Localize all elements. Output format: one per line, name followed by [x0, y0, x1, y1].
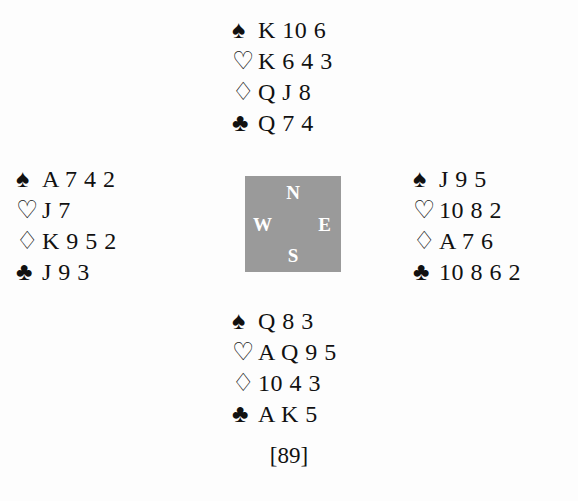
hand-east-hearts-cards: 10 8 2 [439, 195, 502, 226]
hand-south-spades-row: ♠ Q 8 3 [232, 305, 337, 336]
hand-east-clubs-cards: 10 8 6 2 [439, 257, 521, 288]
hand-east-spades-row: ♠ J 9 5 [413, 163, 521, 194]
heart-icon: ♡ [232, 336, 258, 367]
diamond-icon: ♢ [232, 76, 258, 107]
hand-north-hearts-row: ♡ K 6 4 3 [232, 45, 333, 76]
heart-icon: ♡ [232, 45, 258, 76]
hand-south-diamonds-row: ♢ 10 4 3 [232, 367, 337, 398]
diamond-icon: ♢ [232, 367, 258, 398]
compass-label-south: S [288, 246, 299, 265]
hand-south-hearts-cards: A Q 9 5 [258, 337, 337, 368]
hand-east-clubs-row: ♣ 10 8 6 2 [413, 256, 521, 287]
hand-south-clubs-row: ♣ A K 5 [232, 398, 337, 429]
compass-label-north: N [286, 183, 300, 202]
hand-west-spades-cards: A 7 4 2 [42, 164, 116, 195]
hand-west: ♠ A 7 4 2 ♡ J 7 ♢ K 9 5 2 ♣ J 9 3 [16, 163, 117, 287]
diamond-icon: ♢ [16, 225, 42, 256]
club-icon: ♣ [232, 398, 258, 429]
hand-south-clubs-cards: A K 5 [258, 399, 318, 430]
hand-east-spades-cards: J 9 5 [439, 164, 487, 195]
hand-west-clubs-row: ♣ J 9 3 [16, 256, 117, 287]
hand-south: ♠ Q 8 3 ♡ A Q 9 5 ♢ 10 4 3 ♣ A K 5 [232, 305, 337, 429]
diagram-caption: [89] [0, 443, 578, 469]
compass-box: N W E S [245, 176, 341, 272]
hand-west-diamonds-cards: K 9 5 2 [42, 226, 117, 257]
bridge-hand-diagram: ♠ K 10 6 ♡ K 6 4 3 ♢ Q J 8 ♣ Q 7 4 ♠ A 7… [0, 0, 578, 501]
hand-east-diamonds-cards: A 7 6 [439, 226, 494, 257]
club-icon: ♣ [413, 256, 439, 287]
hand-south-hearts-row: ♡ A Q 9 5 [232, 336, 337, 367]
diamond-icon: ♢ [413, 225, 439, 256]
hand-north: ♠ K 10 6 ♡ K 6 4 3 ♢ Q J 8 ♣ Q 7 4 [232, 14, 333, 138]
hand-north-clubs-cards: Q 7 4 [258, 108, 314, 139]
spade-icon: ♠ [232, 14, 258, 45]
spade-icon: ♠ [413, 163, 439, 194]
hand-west-clubs-cards: J 9 3 [42, 257, 90, 288]
hand-west-hearts-row: ♡ J 7 [16, 194, 117, 225]
hand-north-diamonds-cards: Q J 8 [258, 77, 311, 108]
hand-north-hearts-cards: K 6 4 3 [258, 46, 333, 77]
heart-icon: ♡ [16, 194, 42, 225]
hand-west-spades-row: ♠ A 7 4 2 [16, 163, 117, 194]
hand-south-diamonds-cards: 10 4 3 [258, 368, 321, 399]
hand-east-diamonds-row: ♢ A 7 6 [413, 225, 521, 256]
hand-west-hearts-cards: J 7 [42, 195, 71, 226]
hand-west-diamonds-row: ♢ K 9 5 2 [16, 225, 117, 256]
hand-east-hearts-row: ♡ 10 8 2 [413, 194, 521, 225]
hand-east: ♠ J 9 5 ♡ 10 8 2 ♢ A 7 6 ♣ 10 8 6 2 [413, 163, 521, 287]
compass-label-west: W [253, 215, 272, 234]
heart-icon: ♡ [413, 194, 439, 225]
hand-north-spades-row: ♠ K 10 6 [232, 14, 333, 45]
hand-north-diamonds-row: ♢ Q J 8 [232, 76, 333, 107]
hand-south-spades-cards: Q 8 3 [258, 306, 314, 337]
club-icon: ♣ [232, 107, 258, 138]
spade-icon: ♠ [232, 305, 258, 336]
spade-icon: ♠ [16, 163, 42, 194]
club-icon: ♣ [16, 256, 42, 287]
hand-north-spades-cards: K 10 6 [258, 15, 326, 46]
compass-label-east: E [318, 215, 331, 234]
hand-north-clubs-row: ♣ Q 7 4 [232, 107, 333, 138]
